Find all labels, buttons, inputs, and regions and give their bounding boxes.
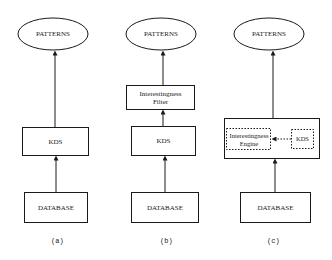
caption-b: (b) [160, 237, 173, 245]
kds-label-a: KDS [22, 127, 89, 156]
filter-label-b: Interestingness Filter [138, 85, 183, 110]
database-label-b: DATABASE [131, 192, 199, 223]
database-label-a: DATABASE [24, 192, 88, 223]
patterns-label-c: PATTERNS [234, 18, 304, 50]
patterns-label-a: PATTERNS [18, 18, 88, 50]
engine-label-c: Interestingness Engine [227, 129, 271, 150]
kds-label-b: KDS [131, 126, 196, 156]
database-label-c: DATABASE [240, 192, 311, 223]
caption-c: (c) [267, 237, 280, 245]
patterns-label-b: PATTERNS [126, 18, 196, 50]
kds-label-c: KDS [291, 129, 314, 149]
caption-a: (a) [51, 237, 64, 245]
